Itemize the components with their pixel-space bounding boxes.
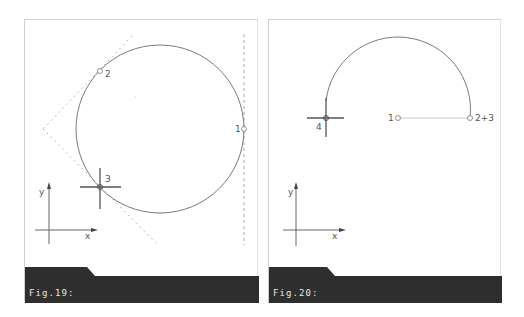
- y-axis-label: y: [39, 187, 45, 197]
- circle-three-points-drawing: 1 2 3 y x: [25, 20, 259, 304]
- x-axis-label: x: [332, 231, 338, 241]
- y-axis-label: y: [288, 187, 294, 197]
- figure-20-caption: Fig.20: Drawing arcs: [269, 267, 500, 303]
- caption-title: Fig.20:: [273, 288, 351, 298]
- crosshair-cursor-icon: [80, 168, 121, 209]
- dotted-tangent-lines: [43, 36, 157, 244]
- figure-19-caption: Fig.19: A circle can also be defined usi…: [25, 267, 257, 303]
- point-1-marker: [396, 116, 401, 121]
- figure-20-panel: 1 2+3 4 y x Fig.20: Drawing arcs: [268, 19, 501, 303]
- point-2-marker: [98, 69, 103, 74]
- x-axis-label: x: [85, 231, 91, 241]
- figure-19-panel: 1 2 3 y x Fig.19: A circle can also be d…: [24, 19, 258, 303]
- point-2-3-label: 2+3: [475, 113, 494, 123]
- point-2-label: 2: [105, 69, 111, 79]
- point-1-label: 1: [388, 113, 394, 123]
- point-2-3-marker: [468, 116, 473, 121]
- arc-drawing: 1 2+3 4 y x: [269, 20, 502, 304]
- point-1-label: 1: [235, 124, 241, 134]
- caption-title: Fig.19:: [29, 288, 251, 298]
- crosshair-cursor-icon: [307, 98, 344, 137]
- point-1-marker: [242, 127, 247, 132]
- point-4-label: 4: [316, 122, 322, 132]
- arc: [326, 37, 470, 118]
- point-3-label: 3: [105, 174, 111, 184]
